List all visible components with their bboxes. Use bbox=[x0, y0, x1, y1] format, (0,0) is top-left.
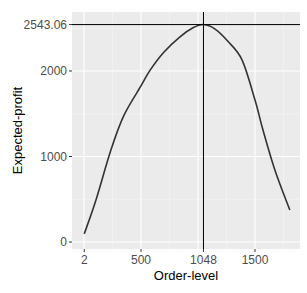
y-tick-label: 2000 bbox=[40, 64, 67, 78]
y-axis-title: Expected-profit bbox=[10, 86, 25, 174]
x-axis-title: Order-level bbox=[154, 268, 218, 283]
x-tick-label: 1048 bbox=[190, 253, 217, 267]
x-axis-ticks: 250010481500 bbox=[81, 249, 269, 267]
plot-panel bbox=[72, 12, 300, 249]
x-tick-label: 2 bbox=[81, 253, 88, 267]
y-tick-label: 0 bbox=[60, 235, 67, 249]
expected-profit-chart: 250010481500 0100020002543.06 Order-leve… bbox=[0, 0, 307, 293]
y-tick-label: 1000 bbox=[40, 150, 67, 164]
y-axis-ticks: 0100020002543.06 bbox=[24, 18, 72, 249]
x-tick-label: 500 bbox=[131, 253, 151, 267]
x-tick-label: 1500 bbox=[242, 253, 269, 267]
y-tick-label: 2543.06 bbox=[24, 18, 68, 32]
